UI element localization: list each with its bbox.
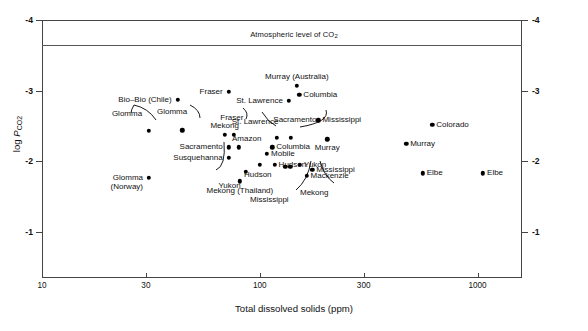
y-axis-tick-left (36, 232, 42, 233)
x-axis-tick-label: 100 (253, 281, 267, 290)
y-axis-tick-label-right: -2 (532, 156, 540, 166)
data-point-label: Sacramento (273, 115, 316, 124)
data-point-label-line: Glomma (111, 172, 143, 181)
x-axis-title: Total dissolved solids (ppm) (0, 303, 588, 314)
y-axis-title-subscript2: 2 (16, 116, 23, 120)
data-point-label: Elbe (487, 169, 503, 178)
data-point-label: Bio–Bio (Chile) (118, 95, 171, 104)
x-axis-tick (478, 273, 479, 278)
y-axis-title-prefix: log (11, 137, 22, 152)
y-axis-tick-left (36, 20, 42, 21)
y-axis-tick-label-left: -4 (18, 15, 33, 25)
data-point-label: Hudson (244, 170, 272, 179)
x-axis-tick-label: 30 (141, 281, 150, 290)
data-point-label: Murray (Australia) (265, 72, 329, 81)
data-point-label: Hudson (279, 160, 307, 169)
data-point-label: Amazon (232, 135, 261, 144)
data-point-label: Glomma (157, 108, 187, 117)
x-axis-tick (364, 273, 365, 278)
x-axis-tick-label: 1000 (468, 281, 486, 290)
y-axis-tick-right (522, 161, 528, 162)
x-axis-tick (42, 273, 43, 278)
y-axis-tick-label-right: -1 (532, 227, 540, 237)
atmospheric-co2-subscript: 2 (334, 33, 337, 39)
y-axis-tick-label-right: -4 (532, 15, 540, 25)
data-point-label: St. Lawrence (232, 117, 279, 126)
y-axis-title-symbol: P (11, 130, 22, 136)
atmospheric-co2-label: Atmospheric level of CO2 (0, 30, 588, 39)
y-axis-tick-label-left: -3 (18, 86, 33, 96)
x-axis-tick-label: 300 (357, 281, 371, 290)
y-axis-tick-right (522, 232, 528, 233)
y-axis-tick-left (36, 91, 42, 92)
data-point-label: Elbe (427, 169, 443, 178)
data-point-label: Mississippi (250, 195, 289, 204)
y-axis-tick-right (522, 20, 528, 21)
y-axis-title-subscript: CO (16, 120, 23, 131)
data-point-label: Murray (410, 139, 435, 148)
y-axis-tick-label-left: -1 (18, 227, 33, 237)
data-point-label-line: (Norway) (111, 182, 143, 191)
y-axis-tick-label-left: -2 (18, 156, 33, 166)
data-point-label: St. Lawrence (236, 96, 283, 105)
data-point-label: Mobile (271, 149, 295, 158)
data-point-label: Murray (315, 144, 340, 153)
x-axis-tick-label: 10 (37, 281, 46, 290)
data-point-label: Fraser (200, 87, 223, 96)
atmospheric-co2-text: Atmospheric level of CO (250, 30, 334, 39)
data-point-label: Mekong (300, 188, 328, 197)
data-point-label: Mackenzie (311, 171, 349, 180)
data-point-label: Columbia (303, 90, 337, 99)
data-point-label: Colorado (436, 120, 468, 129)
data-point-label: Susquehanna (173, 153, 222, 162)
x-axis-tick (146, 273, 147, 278)
x-axis-tick (260, 273, 261, 278)
y-axis-tick-label-right: -3 (532, 86, 540, 96)
atmospheric-co2-line (42, 45, 522, 46)
chart-figure: Atmospheric level of CO2 Bio–Bio (Chile)… (0, 0, 588, 331)
y-axis-tick-left (36, 161, 42, 162)
data-point-label: Mekong (Thailand) (206, 186, 273, 195)
data-point-label: Mississippi (322, 116, 361, 125)
y-axis-tick-right (522, 91, 528, 92)
data-point-label: Sacramento (180, 143, 223, 152)
data-point-label: Glomma(Norway) (111, 172, 143, 191)
data-point-label: Glomma (112, 109, 142, 118)
